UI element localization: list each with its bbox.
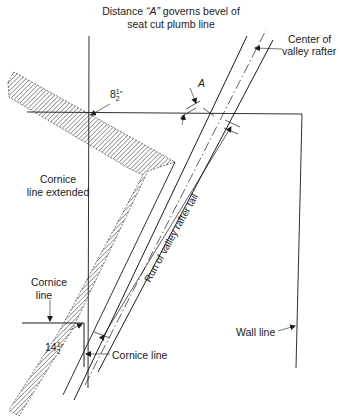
distance-a-dimension [181,88,238,134]
title-variable: “A” [146,5,160,17]
cornice-extended-label-2: line extended [22,186,94,198]
center-label-2: valley rafter [282,45,336,57]
cornice-extended-label-1: Cornice [28,173,88,185]
dimension-a-label: A [198,77,205,89]
valley-rafter-diagram: Run of valley rafter tail [0,0,342,418]
wall-line-label: Wall line [236,326,275,338]
title-line-2: seat cut plumb line [96,18,246,30]
center-label-1: Center of [288,33,331,45]
valley-rafter [63,30,273,400]
hatched-cornice-band [8,72,175,416]
cornice-line-bottom-label: Cornice line [112,349,167,361]
lower-dim-whole: 14 [45,341,57,353]
lower-dimension-label: 1412″ [45,341,63,355]
upper-dim-unit: ″ [120,89,123,98]
title-line-1: Distance “A” governs bevel of [96,5,246,17]
cornice-line-left-label-1: Cornice [24,276,74,288]
lower-dim-unit: ″ [61,342,64,351]
title-text-end: governs bevel of [160,5,240,17]
cornice-line-extended [88,36,89,388]
title-text: Distance [102,5,146,17]
upper-dimension-label: 812″ [110,88,123,102]
upper-dim-leader [91,104,110,115]
wall-line-leader [278,326,295,331]
cornice-line-left-label-2: line [24,289,64,301]
